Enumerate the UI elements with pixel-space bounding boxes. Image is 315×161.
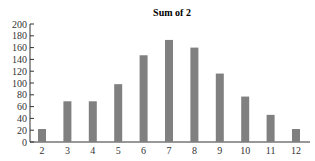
y-tick-label: 140 [12,54,27,65]
bar [241,97,249,142]
y-tick-label: 60 [17,101,27,112]
bar [292,129,300,142]
x-tick-label: 11 [266,145,276,156]
bar [140,55,148,142]
x-tick-label: 8 [192,145,197,156]
x-tick-label: 4 [90,145,95,156]
y-axis: 020406080100120140160180200 [12,19,34,148]
bar [38,129,46,142]
y-tick-label: 200 [12,19,27,30]
bar-chart: Sum of 2 020406080100120140160180200 234… [0,0,315,161]
x-tick-label: 10 [240,145,250,156]
bar [89,101,97,142]
y-tick-label: 100 [12,78,27,89]
y-tick-label: 40 [17,113,27,124]
bar [63,101,71,142]
x-tick-label: 12 [291,145,301,156]
x-tick-label: 6 [141,145,146,156]
bar [165,40,173,142]
bars [38,40,300,142]
bar [267,115,275,142]
chart-title: Sum of 2 [153,7,191,18]
bar [190,48,198,142]
x-tick-label: 3 [65,145,70,156]
bar [114,84,122,142]
y-tick-label: 180 [12,30,27,41]
bar [216,74,224,142]
y-tick-label: 20 [17,125,27,136]
x-tick-label: 5 [116,145,121,156]
x-tick-label: 2 [40,145,45,156]
y-tick-label: 0 [22,137,27,148]
x-axis: 23456789101112 [30,142,310,156]
x-tick-label: 7 [167,145,172,156]
y-tick-label: 160 [12,42,27,53]
y-tick-label: 120 [12,66,27,77]
x-tick-label: 9 [217,145,222,156]
y-tick-label: 80 [17,89,27,100]
